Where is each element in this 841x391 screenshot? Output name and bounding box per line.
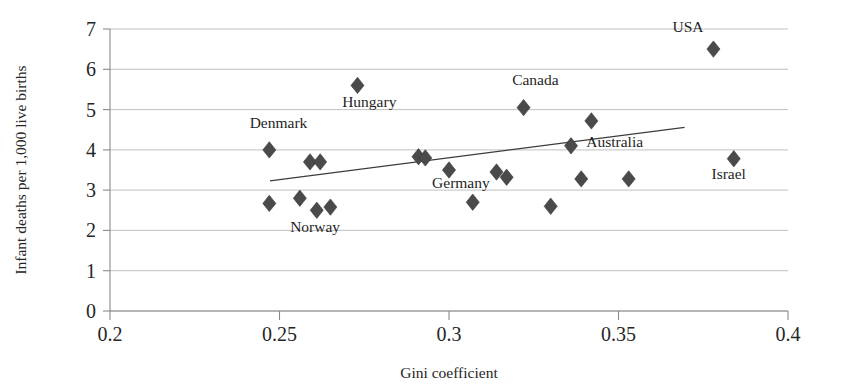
x-tick-label-0.2: 0.2 <box>98 323 123 345</box>
point-label-australia: Australia <box>586 133 643 150</box>
data-point-marker-denmark <box>263 142 276 158</box>
x-tick-label-0.3: 0.3 <box>437 323 462 345</box>
chart-canvas: 0.20.250.30.350.4 01234567 USACanadaHung… <box>0 0 841 391</box>
data-point-marker-1 <box>263 195 276 211</box>
data-point-marker-17 <box>575 171 588 187</box>
x-tick-label-0.35: 0.35 <box>601 323 636 345</box>
y-tick-label-4: 4 <box>86 139 96 161</box>
data-point-marker-canada <box>517 99 530 115</box>
data-point-marker-usa <box>707 41 720 57</box>
point-labels: USACanadaHungaryDenmarkAustraliaIsraelGe… <box>250 18 746 235</box>
y-tick-label-2: 2 <box>86 219 96 241</box>
point-label-hungary: Hungary <box>342 93 396 110</box>
x-tick-label-0.25: 0.25 <box>262 323 297 345</box>
y-tick-label-7: 7 <box>86 18 96 40</box>
data-point-marker-2 <box>293 190 306 206</box>
point-label-usa: USA <box>672 18 704 35</box>
data-point-marker-hungary <box>351 77 364 93</box>
y-axis-title: Infant deaths per 1,000 live births <box>12 65 29 274</box>
y-tick-label-3: 3 <box>86 179 96 201</box>
x-tick-label-0.4: 0.4 <box>776 323 801 345</box>
y-axis-ticks: 01234567 <box>86 18 110 322</box>
x-axis-title: Gini coefficient <box>400 364 498 381</box>
point-label-germany: Germany <box>432 174 490 191</box>
y-tick-label-5: 5 <box>86 99 96 121</box>
data-point-marker-6 <box>324 199 337 215</box>
x-axis-ticks: 0.20.250.30.350.4 <box>98 311 801 345</box>
data-point-marker-18 <box>585 113 598 129</box>
point-label-denmark: Denmark <box>250 114 308 131</box>
data-point-marker-15 <box>544 198 557 214</box>
data-point-marker-4 <box>314 154 327 170</box>
data-point-marker-australia <box>565 138 578 154</box>
y-tick-label-0: 0 <box>86 300 96 322</box>
data-point-marker-5 <box>310 202 323 218</box>
y-tick-label-6: 6 <box>86 58 96 80</box>
point-label-israel: Israel <box>711 165 745 182</box>
scatter-chart: 0.20.250.30.350.4 01234567 USACanadaHung… <box>0 0 841 391</box>
data-point-marker-19 <box>622 171 635 187</box>
y-tick-label-1: 1 <box>86 260 96 282</box>
point-label-norway: Norway <box>290 218 340 235</box>
point-label-canada: Canada <box>512 71 559 88</box>
data-point-marker-11 <box>466 194 479 210</box>
